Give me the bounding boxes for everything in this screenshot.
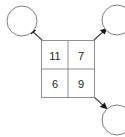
node-bottom-right[interactable] (102, 105, 125, 135)
grid-cell-r1c0: 6 (52, 78, 58, 90)
grid-cell-r0c0: 11 (49, 50, 60, 62)
grid-cell-r1c1: 9 (78, 78, 84, 90)
grid-cell-r0c1: 7 (78, 50, 84, 62)
diagram-svg: 11 7 6 9 (0, 0, 125, 137)
matrix-grid: 11 7 6 9 (42, 41, 95, 98)
diagram-canvas: 11 7 6 9 (0, 0, 125, 137)
node-top-left[interactable] (7, 6, 37, 36)
